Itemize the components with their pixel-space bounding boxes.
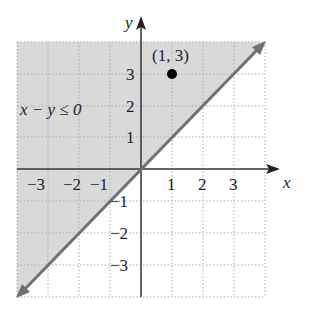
svg-text:3: 3 [126,65,135,84]
svg-text:−2: −2 [63,175,81,194]
svg-text:−2: −2 [110,224,128,243]
y-axis-label: y [123,13,133,32]
svg-text:2: 2 [198,175,207,194]
point-1-3 [167,69,177,79]
svg-text:−3: −3 [110,256,128,275]
svg-text:−1: −1 [90,175,108,194]
svg-text:−1: −1 [110,192,128,211]
svg-text:2: 2 [126,97,135,116]
inequality-graph: y x (1, 3) x − y ≤ 0 −3 −2 −1 1 2 3 3 2 … [0,0,310,313]
inequality-label: x − y ≤ 0 [19,100,82,119]
svg-text:1: 1 [126,128,135,147]
x-axis-label: x [282,173,291,192]
svg-text:−3: −3 [27,175,45,194]
svg-text:1: 1 [167,175,176,194]
point-label: (1, 3) [152,46,189,65]
svg-text:3: 3 [229,175,238,194]
